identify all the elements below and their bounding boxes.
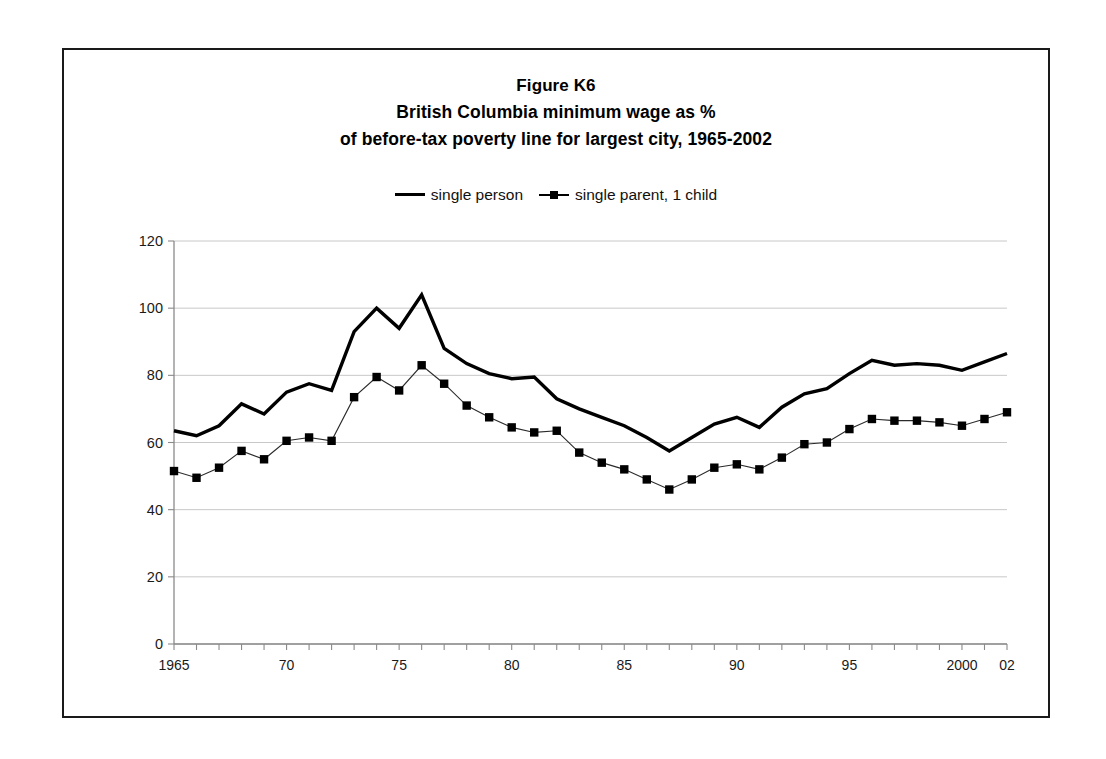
tick-marks	[168, 241, 1007, 650]
data-point-marker	[327, 437, 335, 445]
data-point-marker	[980, 415, 988, 423]
data-point-marker	[305, 433, 313, 441]
data-point-marker	[665, 485, 673, 493]
x-tick-label: 75	[391, 657, 407, 673]
data-point-marker	[485, 413, 493, 421]
series-single-parent-1-child	[170, 361, 1011, 494]
plot-area: 120100806040200 1965707580859095200002	[64, 50, 1052, 720]
x-tick-label: 90	[729, 657, 745, 673]
x-tick-label: 80	[504, 657, 520, 673]
data-point-marker	[800, 440, 808, 448]
data-point-marker	[823, 438, 831, 446]
data-point-marker	[575, 448, 583, 456]
y-tick-label: 120	[139, 233, 163, 249]
data-point-marker	[958, 422, 966, 430]
data-point-marker	[688, 475, 696, 483]
series-single-person	[174, 295, 1007, 451]
data-point-marker	[440, 380, 448, 388]
x-axis-labels: 1965707580859095200002	[158, 657, 1015, 673]
y-tick-label: 100	[139, 300, 163, 316]
data-point-marker	[508, 423, 516, 431]
data-point-marker	[755, 465, 763, 473]
data-point-marker	[170, 467, 178, 475]
data-point-marker	[1003, 408, 1011, 416]
data-point-marker	[778, 453, 786, 461]
data-point-marker	[417, 361, 425, 369]
data-point-marker	[935, 418, 943, 426]
chart-svg: 120100806040200 1965707580859095200002	[64, 50, 1052, 720]
data-point-marker	[192, 474, 200, 482]
figure-frame: Figure K6 British Columbia minimum wage …	[62, 48, 1050, 718]
x-tick-label: 02	[999, 657, 1015, 673]
x-tick-label: 85	[616, 657, 632, 673]
data-point-marker	[462, 401, 470, 409]
data-point-marker	[350, 393, 358, 401]
data-point-marker	[890, 416, 898, 424]
x-tick-label: 95	[842, 657, 858, 673]
x-tick-label: 2000	[946, 657, 977, 673]
y-axis-labels: 120100806040200	[139, 233, 163, 652]
data-point-marker	[598, 458, 606, 466]
data-point-marker	[620, 465, 628, 473]
data-point-marker	[282, 437, 290, 445]
y-tick-label: 20	[147, 569, 163, 585]
y-tick-label: 0	[155, 636, 163, 652]
y-tick-label: 40	[147, 502, 163, 518]
data-point-marker	[215, 463, 223, 471]
data-point-marker	[913, 416, 921, 424]
y-tick-label: 60	[147, 435, 163, 451]
data-point-marker	[733, 460, 741, 468]
y-tick-label: 80	[147, 367, 163, 383]
data-point-marker	[372, 373, 380, 381]
x-tick-label: 70	[279, 657, 295, 673]
gridlines	[174, 241, 1007, 644]
data-point-marker	[643, 475, 651, 483]
data-point-marker	[395, 386, 403, 394]
data-point-marker	[237, 447, 245, 455]
data-point-marker	[530, 428, 538, 436]
data-point-marker	[553, 427, 561, 435]
data-point-marker	[868, 415, 876, 423]
data-point-marker	[710, 463, 718, 471]
data-point-marker	[260, 455, 268, 463]
data-point-marker	[845, 425, 853, 433]
x-tick-label: 1965	[158, 657, 189, 673]
